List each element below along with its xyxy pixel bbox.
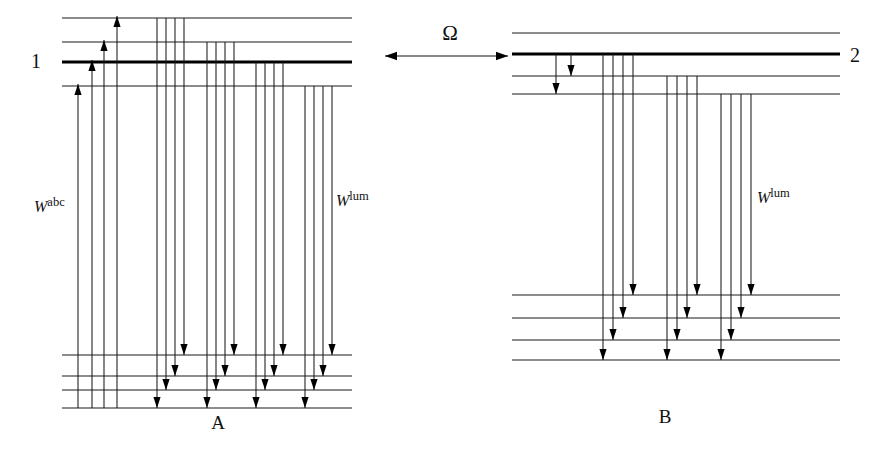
panel-b-label: B	[659, 406, 672, 427]
rate-luminescence-sup-a: lum	[349, 189, 369, 203]
site-1-label: 1	[31, 50, 41, 72]
rate-absorption-sup-a: abc	[47, 195, 65, 209]
energy-level-diagram: 1 2 A B Ω Wabc Wlum Wlum	[0, 0, 890, 449]
figure-background	[0, 0, 890, 449]
figure-canvas: 1 2 A B Ω Wabc Wlum Wlum	[0, 0, 890, 449]
site-2-label: 2	[850, 44, 860, 66]
rate-luminescence-sup-b: lum	[770, 186, 790, 200]
right-luminescence-arrows	[599, 54, 754, 360]
omega-symbol-label: Ω	[442, 21, 458, 45]
panel-a-label: A	[211, 412, 225, 433]
